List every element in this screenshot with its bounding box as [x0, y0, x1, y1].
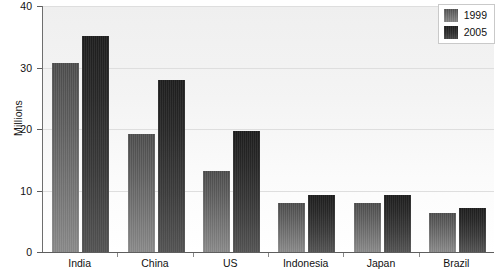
gridline: [43, 6, 494, 7]
gridline: [43, 68, 494, 69]
legend-swatch-icon-2005: [444, 26, 458, 39]
y-tick-mark: [37, 129, 42, 130]
plot-area: [42, 6, 494, 252]
gridline: [43, 191, 494, 192]
bar-india-2005: [82, 36, 109, 252]
x-label-indonesia: Indonesia: [268, 258, 343, 269]
bar-indonesia-2005: [308, 195, 335, 252]
x-label-japan: Japan: [343, 258, 418, 269]
y-tick-label: 10: [8, 186, 32, 197]
bar-chart: Millions 010203040 IndiaChinaUSIndonesia…: [0, 0, 500, 273]
bar-brazil-1999: [429, 213, 456, 252]
bar-china-2005: [158, 80, 185, 252]
x-label-us: US: [193, 258, 268, 269]
bar-japan-2005: [384, 195, 411, 252]
y-tick-label: 40: [8, 1, 32, 12]
x-tick-mark: [193, 253, 194, 257]
bar-india-1999: [52, 63, 79, 252]
x-label-india: India: [42, 258, 117, 269]
y-tick-label: 20: [8, 124, 32, 135]
bar-china-1999: [128, 134, 155, 252]
x-tick-mark: [419, 253, 420, 257]
legend-label-1999: 1999: [464, 10, 487, 21]
legend-swatch-icon-1999: [444, 9, 458, 22]
bar-brazil-2005: [459, 208, 486, 252]
legend-item-1999: 1999: [444, 9, 487, 22]
x-label-brazil: Brazil: [419, 258, 494, 269]
legend-item-2005: 2005: [444, 26, 487, 39]
legend-label-2005: 2005: [464, 27, 487, 38]
y-axis-title: Millions: [12, 78, 24, 158]
y-tick-mark: [37, 252, 42, 253]
y-tick-label: 0: [8, 247, 32, 258]
x-tick-mark: [268, 253, 269, 257]
bar-japan-1999: [354, 203, 381, 252]
y-tick-label: 30: [8, 63, 32, 74]
x-label-china: China: [117, 258, 192, 269]
legend: 1999 2005: [438, 4, 495, 44]
bar-indonesia-1999: [278, 203, 305, 252]
y-tick-mark: [37, 68, 42, 69]
y-tick-mark: [37, 6, 42, 7]
x-tick-mark: [117, 253, 118, 257]
bar-us-2005: [233, 131, 260, 252]
gridline: [43, 129, 494, 130]
bar-us-1999: [203, 171, 230, 252]
y-tick-mark: [37, 191, 42, 192]
x-tick-mark: [343, 253, 344, 257]
